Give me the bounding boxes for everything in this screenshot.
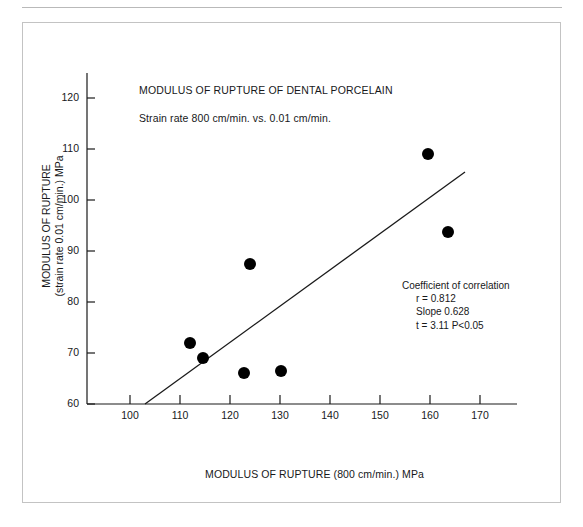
data-point — [238, 367, 250, 379]
x-tick-label-160: 160 — [415, 409, 445, 421]
top-horizontal-rule — [22, 7, 562, 8]
x-tick-label-170: 170 — [465, 409, 495, 421]
y-axis-title-line1: MODULUS OF RUPTURE — [40, 136, 53, 316]
y-axis-ticks — [87, 98, 95, 404]
data-point — [244, 258, 256, 270]
stats-t-value: t = 3.11 P<0.05 — [402, 319, 510, 332]
x-axis-ticks — [130, 395, 480, 404]
x-tick-label-140: 140 — [315, 409, 345, 421]
y-tick-label-60: 60 — [51, 397, 79, 409]
data-point — [422, 148, 434, 160]
figure-page: 60 70 80 90 100 110 120 100 110 120 130 … — [0, 0, 583, 527]
chart-title: MODULUS OF RUPTURE OF DENTAL PORCELAIN — [139, 84, 393, 96]
x-axis-title: MODULUS OF RUPTURE (800 cm/min.) MPa — [23, 468, 583, 480]
stats-slope: Slope 0.628 — [402, 305, 510, 318]
stats-correlation-r: r = 0.812 — [402, 292, 510, 305]
stats-heading: Coefficient of correlation — [402, 279, 510, 292]
y-tick-label-120: 120 — [51, 91, 79, 103]
x-tick-label-110: 110 — [165, 409, 195, 421]
data-point — [184, 337, 196, 349]
data-points — [184, 148, 454, 379]
x-tick-label-120: 120 — [215, 409, 245, 421]
chart-subtitle: Strain rate 800 cm/min. vs. 0.01 cm/min. — [139, 112, 331, 124]
y-axis-title-line2: (strain rate 0.01 cm/min.) MPa — [53, 136, 66, 316]
statistics-annotation: Coefficient of correlation r = 0.812 Slo… — [402, 279, 510, 332]
y-tick-label-70: 70 — [51, 346, 79, 358]
data-point — [442, 226, 454, 238]
y-axis-title: MODULUS OF RUPTURE (strain rate 0.01 cm/… — [40, 136, 66, 316]
x-tick-label-100: 100 — [115, 409, 145, 421]
data-point — [197, 352, 209, 364]
data-point — [275, 365, 287, 377]
figure-frame: 60 70 80 90 100 110 120 100 110 120 130 … — [22, 22, 561, 503]
x-tick-label-150: 150 — [365, 409, 395, 421]
x-tick-label-130: 130 — [265, 409, 295, 421]
